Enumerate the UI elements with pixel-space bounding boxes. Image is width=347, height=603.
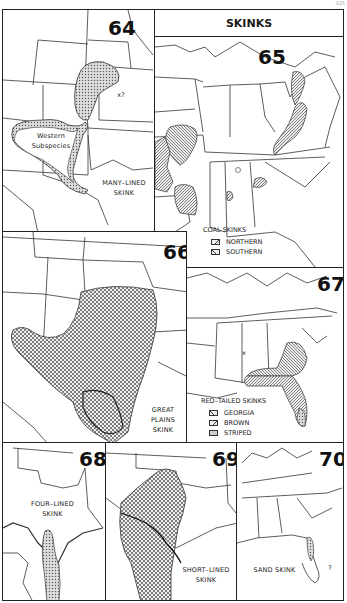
- map-title-line: FOUR–LINED: [25, 499, 80, 509]
- legend-item-striped: STRIPED: [209, 428, 266, 438]
- page-number: 325: [335, 0, 345, 6]
- hatch-swatch-icon: [211, 249, 220, 255]
- dots-swatch-icon: [209, 430, 218, 436]
- map-number: 64: [108, 16, 136, 40]
- legend-item-northern: NORTHERN: [211, 237, 262, 247]
- map-many-lined-skink: [3, 10, 155, 232]
- legend-coal-skinks: COAL SKINKS NORTHERN SOUTHERN: [203, 225, 262, 257]
- map-title-line: SAND SKINK: [247, 565, 302, 575]
- map-title-line: SKINK: [143, 425, 183, 435]
- map-title-line: SKINK: [99, 188, 149, 198]
- map-number: 68: [79, 447, 106, 471]
- legend-title: RED–TAILED SKINKS: [201, 396, 266, 406]
- map-panel-64: 64 Western Subspecies x? MANY–LINED SKIN…: [2, 9, 155, 232]
- hatch-swatch-icon: [211, 239, 220, 245]
- map-panel-67: 67 x RED–TAILED SKINKS GEORGIA BROWN STR…: [186, 267, 344, 443]
- map-number: 65: [258, 45, 286, 69]
- legend-item-georgia: GEORGIA: [209, 408, 266, 418]
- map-panel-69: 69 SHORT–LINED SKINK: [105, 442, 237, 601]
- hatch-swatch-icon: [209, 410, 218, 416]
- map-panel-66: 66 GREAT PLAINS SKINK: [2, 231, 187, 443]
- legend-title: COAL SKINKS: [203, 225, 262, 235]
- map-title-line: PLAINS: [143, 415, 183, 425]
- map-number: 70: [319, 447, 344, 471]
- map-panel-68: 68 FOUR–LINED SKINK: [2, 442, 106, 601]
- annotation-western: Western: [31, 131, 71, 141]
- legend-red-tailed-skinks: RED–TAILED SKINKS GEORGIA BROWN STRIPED: [201, 396, 266, 438]
- map-title-line: SHORT–LINED: [176, 565, 236, 575]
- hatch-swatch-icon: [209, 420, 218, 426]
- annotation-uncertain: ?: [325, 563, 335, 573]
- legend-item-southern: SOUTHERN: [211, 247, 262, 257]
- legend-item-brown: BROWN: [209, 418, 266, 428]
- map-title-line: MANY–LINED: [99, 178, 149, 188]
- map-title-line: SKINK: [25, 509, 80, 519]
- map-number: 67: [317, 272, 344, 296]
- annotation-locality: x: [239, 348, 249, 358]
- map-number: 69: [212, 447, 237, 471]
- annotation-uncertain: x?: [115, 90, 127, 100]
- map-panel-70: 70 SAND SKINK ?: [236, 442, 344, 601]
- page-header: SKINKS: [154, 9, 344, 37]
- map-title-line: GREAT: [143, 405, 183, 415]
- map-title-line: SKINK: [176, 575, 236, 585]
- annotation-subspecies: Subspecies: [31, 141, 71, 151]
- map-number: 66: [163, 240, 187, 264]
